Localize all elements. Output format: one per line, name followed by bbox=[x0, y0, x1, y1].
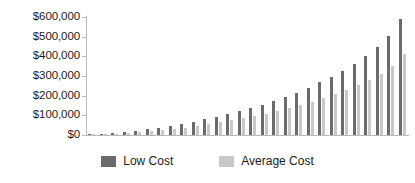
bar-average-cost bbox=[403, 54, 406, 135]
legend-item-average-cost[interactable]: Average Cost bbox=[219, 155, 314, 167]
bar-group bbox=[272, 17, 279, 135]
bar-average-cost bbox=[368, 80, 371, 135]
bar-group bbox=[376, 17, 383, 135]
bar-group bbox=[330, 17, 337, 135]
y-axis-tick bbox=[82, 76, 87, 77]
bar-low-cost bbox=[249, 108, 252, 135]
y-axis-tick-label: $600,000 bbox=[2, 11, 80, 23]
bar-group bbox=[180, 17, 187, 135]
bar-average-cost bbox=[276, 111, 279, 135]
bar-group bbox=[111, 17, 118, 135]
bar-group bbox=[364, 17, 371, 135]
bar-group bbox=[295, 17, 302, 135]
bar-low-cost bbox=[100, 134, 103, 135]
bar-low-cost bbox=[261, 105, 264, 135]
bar-low-cost bbox=[180, 124, 183, 135]
bar-average-cost bbox=[334, 94, 337, 135]
bar-average-cost bbox=[127, 133, 130, 135]
bar-low-cost bbox=[157, 128, 160, 135]
bar-low-cost bbox=[272, 101, 275, 135]
bar-group bbox=[134, 17, 141, 135]
bar-chart: $0$100,000$200,000$300,000$400,000$500,0… bbox=[0, 0, 415, 183]
bar-average-cost bbox=[265, 114, 268, 135]
bar-low-cost bbox=[318, 82, 321, 135]
y-axis-tick bbox=[82, 37, 87, 38]
bar-average-cost bbox=[138, 132, 141, 135]
y-axis-tick-label: $0 bbox=[2, 129, 80, 141]
bar-low-cost bbox=[226, 114, 229, 135]
y-axis-tick bbox=[82, 115, 87, 116]
y-axis-tick-label: $100,000 bbox=[2, 109, 80, 121]
bar-low-cost bbox=[88, 134, 91, 135]
y-axis-tick bbox=[82, 96, 87, 97]
y-axis-tick bbox=[82, 56, 87, 57]
bar-low-cost bbox=[238, 111, 241, 135]
bar-low-cost bbox=[192, 122, 195, 135]
bar-low-cost bbox=[364, 56, 367, 135]
bar-low-cost bbox=[284, 97, 287, 135]
bar-low-cost bbox=[353, 64, 356, 135]
bar-low-cost bbox=[146, 129, 149, 135]
bar-average-cost bbox=[207, 124, 210, 135]
bar-average-cost bbox=[92, 134, 95, 135]
bar-low-cost bbox=[111, 133, 114, 135]
bar-average-cost bbox=[230, 120, 233, 135]
bar-group bbox=[169, 17, 176, 135]
bar-group bbox=[192, 17, 199, 135]
legend-label: Low Cost bbox=[123, 155, 173, 167]
bar-average-cost bbox=[322, 98, 325, 135]
bar-average-cost bbox=[115, 134, 118, 135]
bar-group bbox=[249, 17, 256, 135]
bar-group bbox=[123, 17, 130, 135]
bar-average-cost bbox=[196, 126, 199, 135]
bar-average-cost bbox=[288, 108, 291, 135]
bar-group bbox=[226, 17, 233, 135]
bar-group bbox=[146, 17, 153, 135]
bar-group bbox=[307, 17, 314, 135]
bar-average-cost bbox=[391, 66, 394, 135]
bar-average-cost bbox=[380, 74, 383, 135]
bar-group bbox=[88, 17, 95, 135]
legend-label: Average Cost bbox=[241, 155, 314, 167]
bar-average-cost bbox=[299, 105, 302, 135]
y-axis-tick-label: $500,000 bbox=[2, 31, 80, 43]
bar-group bbox=[261, 17, 268, 135]
legend-swatch-icon bbox=[219, 156, 234, 167]
bar-average-cost bbox=[311, 102, 314, 135]
bar-group bbox=[318, 17, 325, 135]
bar-low-cost bbox=[169, 126, 172, 135]
bar-group bbox=[100, 17, 107, 135]
bar-group bbox=[341, 17, 348, 135]
bar-average-cost bbox=[184, 128, 187, 135]
y-axis-tick bbox=[82, 17, 87, 18]
x-axis-line bbox=[86, 135, 409, 136]
bar-average-cost bbox=[150, 131, 153, 135]
bar-average-cost bbox=[161, 130, 164, 135]
y-axis-tick bbox=[82, 135, 87, 136]
bar-low-cost bbox=[203, 119, 206, 135]
bar-average-cost bbox=[345, 90, 348, 135]
bar-low-cost bbox=[376, 47, 379, 135]
bar-low-cost bbox=[215, 117, 218, 135]
y-axis-tick-label: $300,000 bbox=[2, 70, 80, 82]
bar-group bbox=[215, 17, 222, 135]
bar-low-cost bbox=[330, 77, 333, 135]
y-axis-tick-label: $200,000 bbox=[2, 90, 80, 102]
bar-average-cost bbox=[104, 134, 107, 135]
bar-average-cost bbox=[173, 129, 176, 135]
legend-item-low-cost[interactable]: Low Cost bbox=[101, 155, 173, 167]
bar-low-cost bbox=[399, 19, 402, 135]
bar-group bbox=[203, 17, 210, 135]
y-axis-tick-label: $400,000 bbox=[2, 50, 80, 62]
bar-low-cost bbox=[387, 36, 390, 135]
bar-low-cost bbox=[307, 88, 310, 135]
bar-average-cost bbox=[253, 116, 256, 135]
bar-group bbox=[353, 17, 360, 135]
bar-low-cost bbox=[134, 131, 137, 135]
bar-group bbox=[157, 17, 164, 135]
legend-swatch-icon bbox=[101, 156, 116, 167]
bar-low-cost bbox=[295, 93, 298, 135]
bar-average-cost bbox=[219, 122, 222, 135]
bar-average-cost bbox=[242, 118, 245, 135]
bar-group bbox=[238, 17, 245, 135]
